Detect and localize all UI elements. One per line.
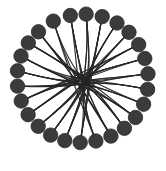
graph-node[interactable]: n23	[21, 36, 35, 50]
graph-node[interactable]: n4	[122, 25, 136, 39]
graph-node[interactable]: n11	[117, 121, 131, 135]
network-graph-canvas: n0n1n2n3n4n5n6n7n8n9n10n11n12n13n14n15n1…	[0, 0, 166, 171]
graph-node[interactable]: n21	[10, 64, 24, 78]
graph-node[interactable]: n3	[110, 16, 124, 30]
graph-node[interactable]: n6	[138, 51, 152, 65]
graph-node[interactable]: n22	[14, 49, 28, 63]
graph-node[interactable]: n15	[58, 133, 72, 147]
graph-node[interactable]: n20	[10, 79, 24, 93]
graph-node[interactable]: n9	[136, 97, 150, 111]
graph-node[interactable]: n24	[31, 25, 45, 39]
graph-node[interactable]: n19	[14, 94, 28, 108]
graph-node[interactable]: n1	[79, 7, 93, 21]
graph-node[interactable]: n7	[141, 67, 155, 81]
graph-node[interactable]: n2	[95, 9, 109, 23]
graph-node[interactable]: n14	[73, 135, 87, 149]
graph-node[interactable]: n5	[132, 37, 146, 51]
network-graph-svg: n0n1n2n3n4n5n6n7n8n9n10n11n12n13n14n15n1…	[0, 0, 166, 171]
graph-node[interactable]: n12	[104, 129, 118, 143]
graph-node[interactable]: n8	[140, 82, 154, 96]
graph-node[interactable]: n17	[31, 119, 45, 133]
graph-node[interactable]: n13	[89, 134, 103, 148]
graph-node[interactable]: n18	[21, 108, 35, 122]
graph-node[interactable]: n25	[46, 14, 60, 28]
graph-node[interactable]: n0	[63, 8, 77, 22]
graph-node[interactable]: n10	[128, 110, 142, 124]
graph-node[interactable]: n16	[43, 128, 57, 142]
